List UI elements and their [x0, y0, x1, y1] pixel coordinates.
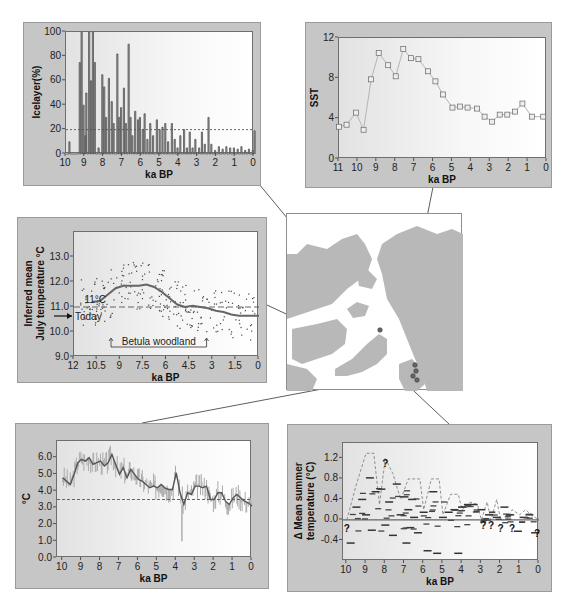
- svg-text:6: 6: [430, 162, 436, 173]
- svg-text:°C: °C: [21, 493, 32, 504]
- delta-mean-summer-temperature-ylabel: Δ Mean summertemperature (°C): [293, 462, 316, 540]
- svg-text:1: 1: [229, 561, 235, 572]
- sst-xlabel: ka BP: [428, 174, 456, 185]
- svg-text:3: 3: [209, 360, 215, 371]
- svg-text:13.0: 13.0: [50, 251, 70, 262]
- icelayer-axes: 109876543210020406080100ka BPIcelayer(%): [24, 23, 262, 187]
- svg-text:0: 0: [250, 157, 256, 168]
- svg-text:7: 7: [411, 162, 417, 173]
- svg-text:SST: SST: [309, 88, 320, 107]
- site-marker: [378, 328, 383, 333]
- svg-text:2: 2: [505, 162, 511, 173]
- svg-text:3: 3: [194, 157, 200, 168]
- svg-text:-0.4: -0.4: [321, 534, 339, 545]
- svg-text:0.0: 0.0: [324, 513, 338, 524]
- july-temperature-xlabel: ka BP: [152, 372, 180, 383]
- svg-text:10: 10: [56, 561, 68, 572]
- svg-text:4.0: 4.0: [38, 485, 52, 496]
- svg-text:12: 12: [323, 32, 335, 43]
- svg-text:8: 8: [100, 157, 106, 168]
- svg-text:1.5: 1.5: [228, 360, 242, 371]
- sst-axes: 1110987654321004812ka BPSST: [306, 23, 553, 189]
- svg-text:3: 3: [486, 162, 492, 173]
- svg-text:2: 2: [210, 561, 216, 572]
- svg-text:11.0: 11.0: [50, 301, 69, 312]
- svg-text:1.2: 1.2: [324, 452, 338, 463]
- sst-ylabel: SST: [309, 88, 320, 107]
- svg-text:0.0: 0.0: [38, 552, 52, 563]
- svg-text:0.8: 0.8: [324, 472, 338, 483]
- svg-text:1: 1: [524, 162, 530, 173]
- delta-summer-temperature-chart-panel: ??????? 109876543210-0.40.00.40.81.2ka B…: [287, 424, 552, 592]
- svg-text:10: 10: [351, 162, 363, 173]
- delta-summer-temperature-axes: 109876543210-0.40.00.40.81.2ka BPΔ Mean …: [288, 425, 553, 593]
- svg-text:4: 4: [468, 162, 474, 173]
- svg-text:0: 0: [55, 148, 61, 159]
- svg-text:2: 2: [497, 564, 503, 575]
- svg-text:60: 60: [50, 74, 62, 85]
- icelayer-ylabel: Icelayer(%): [31, 66, 42, 119]
- svg-text:6: 6: [135, 561, 141, 572]
- svg-text:4: 4: [328, 112, 334, 123]
- svg-text:9.0: 9.0: [55, 351, 69, 362]
- icelayer-ticks: 109876543210020406080100: [44, 26, 256, 169]
- svg-text:0: 0: [255, 360, 261, 371]
- summer-temperature-axes: 1098765432100.01.02.03.04.05.06.0ka BP°C: [16, 424, 270, 590]
- svg-text:8: 8: [328, 72, 334, 83]
- svg-text:10: 10: [340, 564, 352, 575]
- arctic-map: [286, 213, 462, 390]
- svg-text:0: 0: [248, 561, 254, 572]
- svg-text:100: 100: [44, 26, 61, 37]
- svg-text:9: 9: [362, 564, 368, 575]
- summer-temperature-c-xlabel: ka BP: [140, 573, 168, 584]
- delta-mean-summer-temperature-xlabel: ka BP: [426, 576, 454, 587]
- svg-text:10: 10: [59, 157, 71, 168]
- svg-text:1.0: 1.0: [38, 535, 52, 546]
- svg-text:4: 4: [458, 564, 464, 575]
- svg-text:4.5: 4.5: [182, 360, 196, 371]
- sst-ticks: 1110987654321004812: [323, 32, 549, 174]
- svg-text:1: 1: [516, 564, 522, 575]
- today-label: Today: [75, 311, 102, 322]
- svg-text:5: 5: [449, 162, 455, 173]
- svg-text:8: 8: [381, 564, 387, 575]
- svg-text:9: 9: [78, 561, 84, 572]
- svg-text:9: 9: [81, 157, 87, 168]
- svg-text:10.0: 10.0: [50, 326, 70, 337]
- svg-text:6: 6: [420, 564, 426, 575]
- site-marker: [415, 378, 420, 383]
- svg-text:8: 8: [392, 162, 398, 173]
- svg-text:Δ Mean summer: Δ Mean summer: [293, 462, 304, 539]
- svg-text:5: 5: [156, 157, 162, 168]
- svg-text:10.5: 10.5: [86, 360, 106, 371]
- svg-text:0: 0: [535, 564, 541, 575]
- svg-text:8: 8: [97, 561, 103, 572]
- summer-temperature-c-ticks: 1098765432100.01.02.03.04.05.06.0: [38, 451, 254, 572]
- svg-text:12: 12: [67, 360, 79, 371]
- svg-text:4: 4: [172, 561, 178, 572]
- july-temperature-ylabel: Inferred meanJuly temperature °C: [23, 246, 46, 341]
- july-temperature-axes: 1210.597.564.531.509.010.011.012.013.0ka…: [18, 218, 268, 384]
- svg-text:7: 7: [401, 564, 407, 575]
- svg-text:20: 20: [50, 123, 62, 134]
- site-marker: [413, 363, 418, 368]
- svg-text:1: 1: [231, 157, 237, 168]
- svg-text:7.5: 7.5: [135, 360, 149, 371]
- svg-text:5: 5: [154, 561, 160, 572]
- svg-text:2: 2: [213, 157, 219, 168]
- arctic-map-land: [287, 214, 463, 391]
- site-marker: [411, 374, 416, 379]
- svg-text:2.0: 2.0: [38, 518, 52, 529]
- svg-text:3.0: 3.0: [38, 501, 52, 512]
- svg-text:July temperature °C: July temperature °C: [35, 246, 46, 341]
- svg-text:0.4: 0.4: [324, 493, 338, 504]
- svg-text:7: 7: [119, 157, 125, 168]
- svg-text:5: 5: [439, 564, 445, 575]
- delta-mean-summer-temperature-ticks: 109876543210-0.40.00.40.81.2: [321, 452, 541, 575]
- sst-chart-panel: 1110987654321004812ka BPSST: [305, 22, 552, 188]
- svg-text:temperature (°C): temperature (°C): [305, 462, 316, 540]
- july-temperature-chart-panel: 11°CBetula woodland 1210.597.564.531.509…: [17, 217, 267, 383]
- svg-text:7: 7: [116, 561, 122, 572]
- svg-text:5.0: 5.0: [38, 468, 52, 479]
- svg-text:Icelayer(%): Icelayer(%): [31, 66, 42, 119]
